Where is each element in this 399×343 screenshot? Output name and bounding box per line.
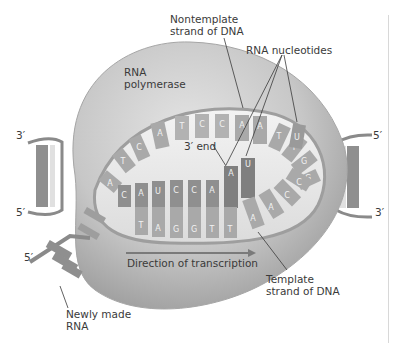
label-three-prime-end: 3′ end (184, 140, 216, 152)
tmpl-base-5: T (227, 225, 233, 234)
label-newly-made-rna: Newly made RNA (66, 308, 131, 332)
rna-base-3: C (173, 186, 179, 195)
free-nucleotide-letter: U (294, 133, 300, 142)
tmpl-base-3: G (191, 225, 197, 234)
nt-base-8: A (257, 122, 263, 131)
label-newly-made-line1: Newly made (66, 308, 131, 320)
rna-base-0: C (121, 191, 127, 200)
label-direction-of-transcription: Direction of transcription (127, 257, 258, 269)
label-nontemplate-line2: strand of DNA (170, 25, 244, 37)
nt-base-6: C (219, 120, 225, 129)
label-right-top-end: 5′ (373, 129, 382, 141)
nt-base-4: T (179, 122, 185, 131)
rna-base-7: U (245, 160, 251, 169)
label-newly-made-line2: RNA (66, 320, 131, 332)
rna-base-4: C (191, 186, 197, 195)
label-rna-nucleotides: RNA nucleotides (246, 44, 332, 56)
transcription-diagram: A T C A T C C A A T T G G C A U (0, 0, 399, 343)
tmpl-base-4: T (209, 225, 215, 234)
label-left-top-end: 3′ (16, 129, 25, 141)
nt-base-1: T (120, 157, 126, 166)
nt-base-0: A (107, 179, 113, 188)
label-nontemplate-line1: Nontemplate (170, 13, 244, 25)
nt-base-2: C (136, 143, 142, 152)
rna-base-6: A (228, 169, 234, 178)
tmpl-base-8: C (284, 191, 290, 200)
label-template-strand: Template strand of DNA (266, 273, 340, 297)
label-rna-5prime-end: 5′ (24, 251, 33, 263)
rna-base-1: A (138, 189, 144, 198)
label-template-line1: Template (266, 273, 340, 285)
tmpl-base-0: T (138, 221, 144, 230)
label-rna-polymerase: RNA polymerase (124, 66, 186, 90)
page-edge-rule (388, 15, 389, 343)
label-nontemplate-strand: Nontemplate strand of DNA (170, 13, 244, 37)
label-rna-polymerase-line1: RNA (124, 66, 186, 78)
tmpl-base-9: C (296, 178, 302, 187)
nt-base-3: A (157, 129, 163, 138)
nt-base-11: G (301, 157, 307, 166)
tmpl-base-6: A (250, 214, 256, 223)
tmpl-base-1: A (155, 224, 161, 233)
nt-base-5: C (199, 120, 205, 129)
nt-base-9: T (276, 132, 282, 141)
label-rna-polymerase-line2: polymerase (124, 78, 186, 90)
tmpl-base-7: A (268, 203, 274, 212)
left-dna-duplex (28, 139, 62, 215)
label-right-bottom-end: 3′ (375, 206, 384, 218)
rna-base-2: U (155, 187, 161, 196)
label-left-bottom-end: 5′ (16, 206, 25, 218)
label-template-line2: strand of DNA (266, 285, 340, 297)
tmpl-base-2: G (173, 225, 179, 234)
rna-base-5: A (209, 186, 215, 195)
